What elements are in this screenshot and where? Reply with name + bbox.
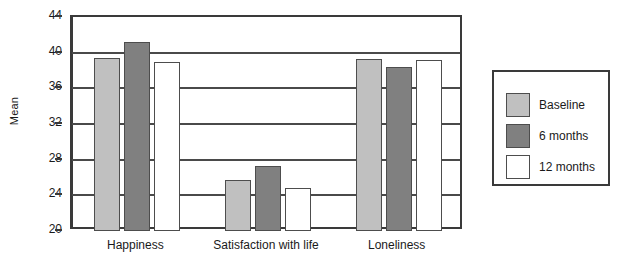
bar [94, 58, 120, 231]
legend-item: 12 months [506, 154, 595, 180]
bar-chart: Mean 44403632282420 Baseline6 months12 m… [0, 0, 624, 267]
legend-label: Baseline [539, 98, 585, 112]
legend-swatch [506, 124, 530, 148]
bar [124, 42, 150, 231]
legend-label: 6 months [539, 129, 588, 143]
legend-label: 12 months [539, 160, 595, 174]
bar [255, 166, 281, 231]
y-tick-mark [55, 158, 62, 160]
y-tick-mark [55, 15, 62, 17]
plot-area [70, 15, 462, 229]
y-tick-mark [55, 51, 62, 53]
legend-swatch [506, 155, 530, 179]
y-tick-mark [55, 86, 62, 88]
x-tick-label: Loneliness [331, 238, 462, 252]
x-tick-label: Satisfaction with life [201, 238, 332, 252]
bar [285, 188, 311, 231]
y-tick-mark [55, 122, 62, 124]
legend-item: 6 months [506, 123, 588, 149]
bar [386, 67, 412, 231]
legend-item: Baseline [506, 92, 585, 118]
bar [416, 60, 442, 231]
bars-layer [72, 17, 460, 227]
x-tick-label: Happiness [70, 238, 201, 252]
bar [154, 62, 180, 231]
y-axis-ticks: 44403632282420 [18, 0, 62, 267]
chart-legend: Baseline6 months12 months [492, 70, 610, 186]
bar [225, 180, 251, 231]
legend-swatch [506, 93, 530, 117]
bar [356, 59, 382, 231]
y-tick-mark [55, 229, 62, 231]
y-tick-mark [55, 193, 62, 195]
